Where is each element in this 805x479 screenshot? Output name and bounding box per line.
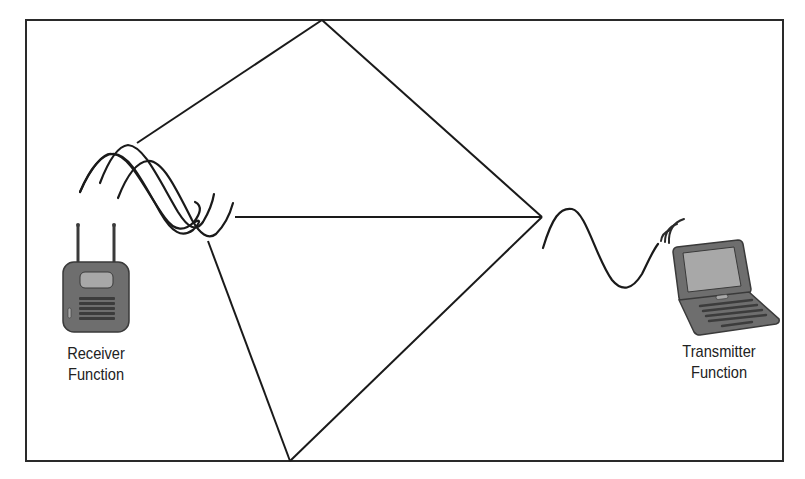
wave-1: [80, 154, 199, 234]
receiver-label-line2: Function: [53, 364, 139, 385]
receiver-label-line1: Receiver: [53, 343, 139, 364]
transmitted-wave: [543, 209, 658, 288]
path-lower-right: [290, 217, 542, 461]
path-lower-left: [208, 241, 290, 461]
path-upper-left: [137, 20, 322, 143]
multipath-diagram: [0, 0, 805, 479]
wave-2: [100, 145, 214, 227]
path-upper-right: [322, 20, 542, 217]
wireless-access-point-icon: [63, 223, 129, 332]
laptop-icon: [673, 240, 779, 335]
signal-paths: [137, 20, 542, 461]
receiver-label: Receiver Function: [53, 343, 139, 385]
transmitter-label-line1: Transmitter: [672, 341, 767, 362]
received-waves: [80, 145, 233, 236]
transmitter-label: Transmitter Function: [672, 341, 767, 383]
transmitter-label-line2: Function: [672, 362, 767, 383]
wifi-signal-icon: [661, 219, 684, 243]
